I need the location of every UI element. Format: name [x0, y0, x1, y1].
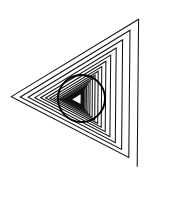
figure-container	[0, 0, 181, 207]
figure-background	[0, 0, 181, 207]
spiral-figure-canvas	[0, 0, 181, 207]
